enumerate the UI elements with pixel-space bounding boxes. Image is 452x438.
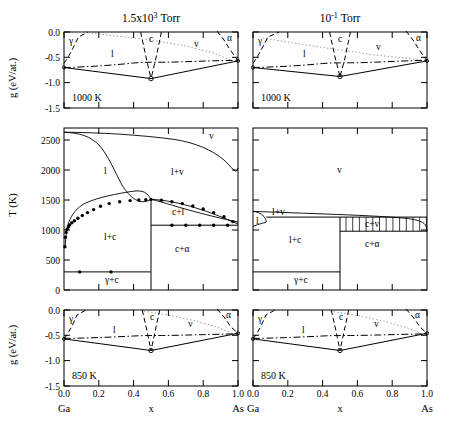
label-l-top-left: l [111,49,114,59]
xtick-r-3: 0.6 [351,389,363,399]
label-alpha-top-right: α [416,33,421,43]
label-gammac-mid-left: γ+c [104,275,119,285]
label-lv-mid-left: l+v [171,167,184,177]
temperature-top-right: 1000 K [261,92,292,103]
temperature-bottom-left: 850 K [72,370,98,381]
label-c-top-right: c [338,34,342,44]
label-c-bottom-right: c [339,312,343,322]
xtick-r-1: 0.2 [282,389,294,399]
ttick-1500: 1500 [41,196,60,206]
label-l-bottom-left: l [113,325,116,335]
label-calpha-mid-right: c+α [365,239,380,249]
figure-root: 1.5x103 Torr 10-1 Torr g (eV/at.) T (K) … [0,0,452,438]
label-gammac-mid-right: γ+c [293,275,308,285]
title-right-column: 10-1 Torr [320,11,361,24]
label-v-bottom-right: v [374,319,379,329]
label-lc-mid-right: l+c [289,235,301,245]
t-axis-label: T (K) [7,193,19,217]
ytick-3: -1.5 [45,104,60,114]
label-v-top-right: v [376,42,381,52]
phase-diagram-figure: 1.5x103 Torr 10-1 Torr g (eV/at.) T (K) … [0,0,452,438]
label-lc-mid-left: l+c [104,232,116,242]
ttick-0: 0 [55,286,60,296]
title-left-unit: Torr [160,12,180,24]
temperature-top-left: 1000 K [72,92,103,103]
label-alpha-bottom-left: α [226,310,231,320]
ttick-500: 500 [46,256,61,266]
xtick-l-4: 0.8 [197,389,209,399]
temperature-bottom-right: 850 K [261,370,287,381]
label-gamma-bottom-right: γ [257,314,262,324]
ytick-1: -0.5 [45,53,60,63]
xtick-l-0: 0.0 [58,389,70,399]
xtick-l-1: 0.2 [93,389,105,399]
t-axis-label-text: T (K) [7,193,19,217]
title-right-exponent: -1 [331,11,338,20]
label-v-bottom-left: v [188,319,193,329]
xtick-r-5: 1.0 [421,389,433,399]
label-l-mid-right: l [256,216,259,226]
g-axis-label-bottom-text: g (eV/at.) [7,324,19,365]
gtick-b-2: -1.0 [45,356,60,366]
x-axis-label-right: x [337,403,343,414]
label-cv-mid-right: c+v [365,219,380,229]
g-axis-label-top-text: g (eV/at.) [7,57,19,98]
xtick-l-3: 0.6 [162,389,174,399]
label-lv-mid-right: l+v [272,207,285,217]
gtick-b-0: 0.0 [48,306,60,316]
xtick-l-2: 0.4 [128,389,140,399]
ttick-2000: 2000 [41,166,60,176]
xtick-l-5: 1.0 [232,389,244,399]
label-v-mid-right: v [337,165,342,175]
x-axis-right-end-left: As [232,403,244,414]
x-axis-left-end-right: Ga [247,403,260,414]
xtick-r-0: 0.0 [247,389,259,399]
xtick-r-2: 0.4 [317,389,329,399]
title-left-column: 1.5x103 Torr [122,11,180,24]
x-axis-right-end-right: As [421,403,433,414]
label-gamma-top-right: γ [257,36,262,46]
label-c-top-left: c [149,34,153,44]
ytick-2: -1.0 [45,78,60,88]
label-l-mid-left: l [104,166,107,176]
label-c-bottom-left: c [150,312,154,322]
g-axis-label-bottom: g (eV/at.) [7,324,19,365]
x-axis-label-left: x [148,403,154,414]
title-right-base: 10 [320,12,332,24]
x-axis-left-end-left: Ga [58,403,71,414]
label-alpha-bottom-right: α [415,310,420,320]
label-cl-mid-left: c+l [172,207,185,217]
ttick-1000: 1000 [41,226,60,236]
label-v-mid-left: v [209,131,214,141]
label-alpha-top-left: α [227,33,232,43]
label-gamma-top-left: γ [68,36,73,46]
g-axis-label-top: g (eV/at.) [7,57,19,98]
label-l-bottom-right: l [302,325,305,335]
xtick-r-4: 0.8 [386,389,398,399]
gtick-b-1: -0.5 [45,331,60,341]
title-right-unit: Torr [341,12,361,24]
label-gamma-bottom-left: γ [68,314,73,324]
title-left-base: 1.5x10 [122,12,154,24]
ttick-2500: 2500 [41,136,60,146]
label-calpha-mid-left: c+α [175,244,190,254]
label-l-top-right: l [303,49,306,59]
label-v-top-left: v [194,39,199,49]
ytick-0: 0.0 [48,28,60,38]
